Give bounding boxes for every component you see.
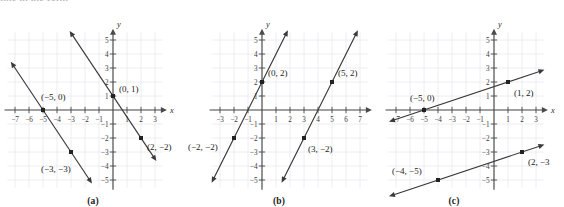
x-tick-label: 2 (139, 116, 143, 124)
line-arrow-head (538, 144, 545, 149)
coordinate-plane-a: xy−7−6−5−4−3−2−1123−5−4−3−2−112345(0, 1)… (0, 11, 186, 207)
x-tick-label: 4 (316, 116, 320, 124)
x-tick-label: 7 (358, 116, 362, 124)
data-point-marker (139, 136, 143, 140)
y-tick-label: −5 (250, 177, 258, 185)
x-tick-label: −5 (39, 116, 47, 124)
y-axis-label: y (265, 20, 270, 29)
ticks-a: −7−6−5−4−3−2−1123−5−4−3−2−112345 (11, 37, 157, 185)
point-label: (−5, 0) (41, 92, 66, 102)
y-axis-arrow (491, 29, 497, 35)
line-segment (213, 33, 286, 179)
x-tick-label: 3 (153, 116, 157, 124)
axes-a: xy (5, 20, 174, 190)
y-tick-label: 1 (486, 93, 490, 101)
x-tick-label: −7 (11, 116, 19, 124)
graph-panel-c: xy−7−6−5−4−3−2−1123−5−4−3−2−112345(−5, 0… (372, 11, 564, 207)
x-tick-label: −5 (420, 116, 428, 124)
y-tick-label: 5 (254, 37, 258, 45)
y-axis-label: y (497, 20, 502, 29)
y-tick-label: −3 (101, 149, 109, 157)
x-axis-label: x (169, 106, 174, 115)
cropped-header-text: line in the form (0, 0, 300, 11)
panel-caption-a: (a) (0, 196, 186, 206)
line-arrow-head (538, 69, 545, 74)
line-segment (283, 33, 356, 179)
line-arrow-head (87, 177, 92, 183)
point-label: (2, −3 (528, 157, 550, 167)
y-tick-label: 5 (105, 37, 109, 45)
y-tick-label: 4 (254, 51, 258, 59)
data-point-marker (302, 136, 306, 140)
y-tick-label: −5 (101, 177, 109, 185)
y-tick-label: −1 (250, 121, 258, 129)
y-tick-label: −1 (482, 121, 490, 129)
panel-caption-b: (b) (186, 196, 372, 206)
y-tick-label: 3 (105, 65, 109, 73)
x-tick-label: 1 (506, 116, 510, 124)
series-line-b-left (212, 30, 288, 183)
point-label: (−5, 0) (410, 93, 435, 103)
y-tick-label: −4 (101, 163, 109, 171)
point-label: (−3, −3) (41, 164, 71, 174)
y-tick-label: 1 (105, 93, 109, 101)
y-tick-label: 2 (486, 79, 490, 87)
point-label: (−2, −2) (188, 142, 218, 152)
data-point-marker (436, 178, 440, 182)
panel-caption-c: (c) (358, 196, 550, 206)
y-tick-label: 2 (254, 79, 258, 87)
y-tick-label: −4 (250, 163, 258, 171)
x-axis-arrow (161, 107, 167, 113)
y-axis-label: y (116, 20, 121, 29)
x-axis-arrow (366, 107, 372, 113)
y-tick-label: −5 (482, 177, 490, 185)
y-tick-label: 3 (486, 65, 490, 73)
y-tick-label: −2 (482, 135, 490, 143)
data-point-marker (69, 150, 73, 154)
y-axis-arrow (259, 29, 265, 35)
point-labels-c: (−5, 0)(1, 2)(−4, −5)(2, −3 (392, 88, 550, 176)
x-tick-label: −6 (25, 116, 33, 124)
x-tick-label: −3 (216, 116, 224, 124)
x-tick-label: −2 (230, 116, 238, 124)
x-tick-label: 6 (344, 116, 348, 124)
point-label: (2, −2) (147, 142, 172, 152)
graph-panel-b: xy−3−2−11234567−5−4−3−2−112345(0, 2)(5, … (186, 11, 372, 207)
data-point-marker (520, 150, 524, 154)
y-tick-label: 4 (105, 51, 109, 59)
x-tick-label: −6 (406, 116, 414, 124)
x-tick-label: 1 (274, 116, 278, 124)
x-axis-arrow (542, 107, 548, 113)
y-tick-label: 4 (486, 51, 490, 59)
coordinate-plane-c: xy−7−6−5−4−3−2−1123−5−4−3−2−112345(−5, 0… (372, 11, 564, 207)
line-arrow-head (151, 155, 156, 161)
point-label: (1, 2) (514, 88, 534, 98)
y-tick-label: −2 (101, 135, 109, 143)
x-tick-label: −4 (434, 116, 442, 124)
y-tick-label: −3 (250, 149, 258, 157)
data-point-marker (506, 80, 510, 84)
x-tick-label: 5 (330, 116, 334, 124)
x-tick-label: −2 (81, 116, 89, 124)
line-arrow-head (70, 31, 75, 37)
point-label: (3, −2) (308, 144, 333, 154)
graph-panel-a: xy−7−6−5−4−3−2−1123−5−4−3−2−112345(0, 1)… (0, 11, 186, 207)
data-point-marker (232, 136, 236, 140)
data-point-marker (330, 80, 334, 84)
point-label: (−4, −5) (392, 166, 422, 176)
data-point-marker (260, 80, 264, 84)
x-tick-label: 2 (288, 116, 292, 124)
y-tick-label: −3 (482, 149, 490, 157)
data-point-marker (41, 108, 45, 112)
x-tick-label: −2 (462, 116, 470, 124)
ticks-b: −3−2−11234567−5−4−3−2−112345 (216, 37, 362, 185)
x-tick-label: −3 (67, 116, 75, 124)
x-tick-label: 3 (534, 116, 538, 124)
y-tick-label: −2 (250, 135, 258, 143)
point-label: (0, 2) (268, 68, 288, 78)
data-point-marker (422, 108, 426, 112)
y-axis-arrow (110, 29, 116, 35)
point-label: (5, 2) (338, 68, 358, 78)
line-arrow-head (11, 62, 16, 68)
y-tick-label: 5 (486, 37, 490, 45)
